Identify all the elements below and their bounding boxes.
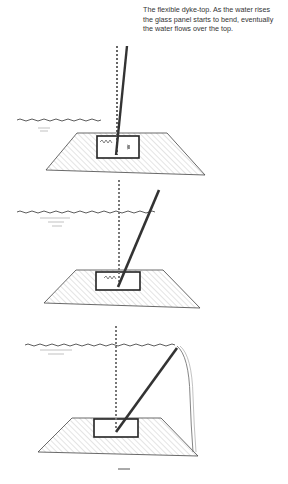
panel-low-water	[17, 46, 205, 175]
panel-rising-water	[17, 180, 200, 308]
dyke-illustration	[0, 0, 288, 484]
panel-overflow	[25, 326, 198, 469]
